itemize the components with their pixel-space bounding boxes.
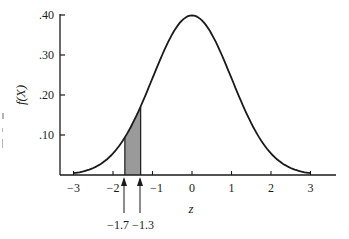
annotation-label-right: −1.3 xyxy=(132,218,154,232)
x-tick-label: 1 xyxy=(229,181,235,195)
x-tick-label: 2 xyxy=(268,181,274,195)
scan-artifact xyxy=(2,113,4,119)
y-axis-ticks: .10.20.30.40 xyxy=(39,8,65,142)
y-tick-label: .10 xyxy=(39,128,54,142)
x-tick-label: −2 xyxy=(107,181,120,195)
scan-artifact xyxy=(2,128,3,132)
x-axis-label: z xyxy=(187,201,193,216)
normal-distribution-chart: .10.20.30.40 −3−2−10123 f(X) z −1.7 −1.3 xyxy=(0,0,349,239)
y-tick-label: .20 xyxy=(39,88,54,102)
shaded-area xyxy=(125,107,141,176)
normal-curve xyxy=(74,15,311,173)
y-tick-label: .30 xyxy=(39,48,54,62)
arrow-left xyxy=(121,177,127,213)
x-tick-label: 3 xyxy=(308,181,314,195)
annotation-label-left: −1.7 xyxy=(107,218,129,232)
x-tick-label: 0 xyxy=(189,181,195,195)
x-tick-label: −3 xyxy=(67,181,80,195)
x-tick-label: −1 xyxy=(150,181,163,195)
y-axis-label: f(X) xyxy=(13,85,28,105)
y-tick-label: .40 xyxy=(39,8,54,22)
arrow-right xyxy=(137,177,143,213)
scan-artifact xyxy=(2,139,3,148)
